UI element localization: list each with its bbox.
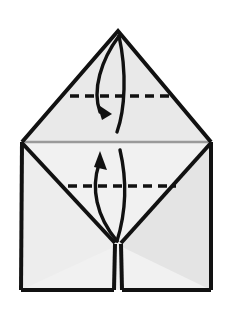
origami-illustration <box>0 0 231 310</box>
origami-diagram: Origami fold step diagram <box>0 0 231 310</box>
left-side-edge <box>21 142 22 290</box>
center-slit-right-edge <box>121 244 122 290</box>
upper-triangle-face <box>22 31 211 142</box>
center-slit-left-edge <box>114 244 115 290</box>
